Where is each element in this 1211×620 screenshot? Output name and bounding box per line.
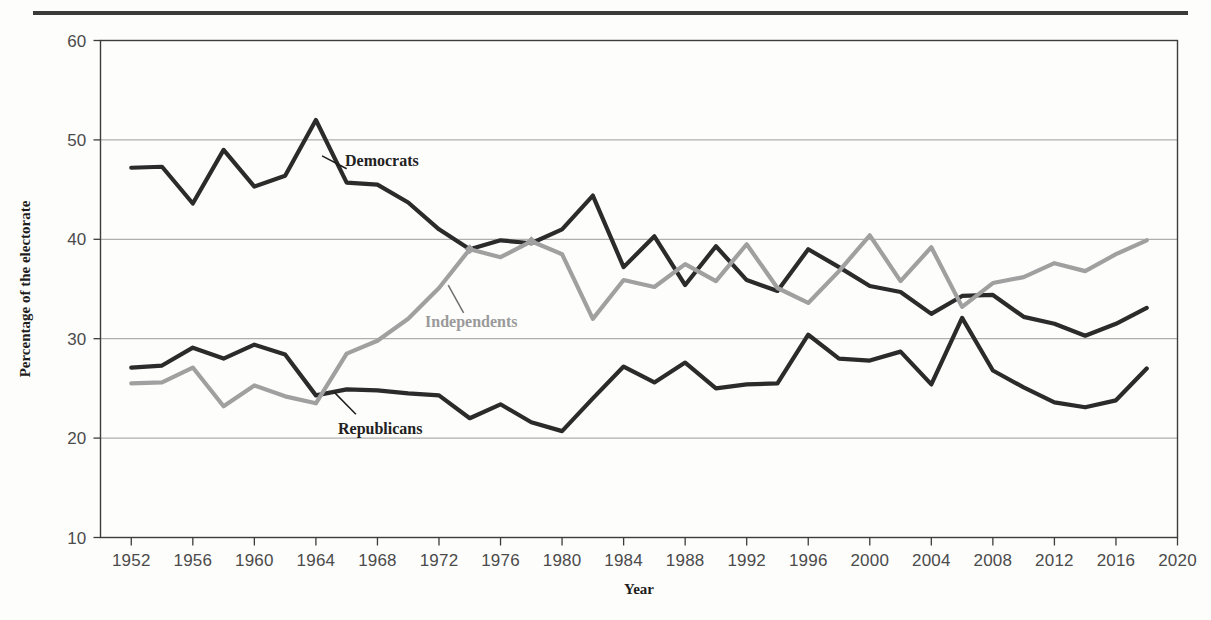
x-tick-label: 2000: [850, 551, 889, 570]
x-tick-label: 2008: [974, 551, 1013, 570]
y-axis: 102030405060: [67, 32, 100, 548]
plot-frame: [101, 41, 1178, 538]
x-tick-label: 1988: [666, 551, 705, 570]
x-axis: 1952195619601964196819721976198019841988…: [112, 538, 1197, 570]
series-line-republicans: [131, 318, 1146, 431]
x-tick-label: 2016: [1097, 551, 1136, 570]
x-tick-label: 1980: [543, 551, 582, 570]
y-tick-label: 50: [67, 131, 86, 150]
x-tick-label: 2004: [912, 551, 951, 570]
x-tick-label: 2020: [1158, 551, 1197, 570]
x-tick-label: 1964: [297, 551, 336, 570]
x-tick-label: 1992: [727, 551, 766, 570]
series-label-independents: Independents: [425, 313, 517, 331]
x-axis-title: Year: [624, 581, 654, 597]
x-tick-label: 1972: [420, 551, 459, 570]
x-tick-label: 1956: [174, 551, 213, 570]
leader-line: [334, 392, 356, 414]
x-tick-label: 1952: [112, 551, 151, 570]
y-tick-label: 40: [67, 230, 86, 249]
x-tick-label: 1976: [481, 551, 520, 570]
y-axis-title: Percentage of the electorate: [17, 200, 33, 377]
line-chart-canvas: 102030405060 195219561960196419681972197…: [0, 0, 1211, 620]
y-tick-label: 20: [67, 429, 86, 448]
x-tick-label: 2012: [1035, 551, 1074, 570]
series-label-republicans: Republicans: [338, 420, 422, 438]
x-tick-label: 1996: [789, 551, 828, 570]
chart-figure: 102030405060 195219561960196419681972197…: [0, 0, 1211, 620]
data-series-group: [131, 120, 1146, 431]
x-tick-label: 1984: [604, 551, 643, 570]
x-tick-label: 1960: [235, 551, 274, 570]
x-tick-label: 1968: [358, 551, 397, 570]
y-tick-label: 30: [67, 330, 86, 349]
series-line-independents: [131, 235, 1146, 406]
y-tick-label: 10: [67, 529, 86, 548]
series-line-democrats: [131, 120, 1146, 336]
y-tick-label: 60: [67, 32, 86, 51]
leader-line: [448, 285, 463, 313]
series-label-democrats: Democrats: [345, 152, 419, 169]
